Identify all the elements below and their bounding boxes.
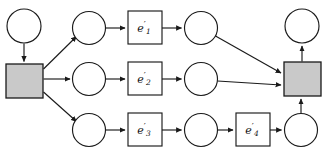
- node-row1-circle-b[interactable]: [185, 12, 218, 45]
- node-row3-circle-a[interactable]: [73, 114, 106, 147]
- node-right-shaded-square[interactable]: [284, 62, 321, 96]
- node-row3-circle-b[interactable]: [185, 114, 218, 147]
- node-end-circle[interactable]: [285, 9, 319, 43]
- node-left-shaded-square[interactable]: [6, 64, 43, 98]
- node-start-circle[interactable]: [7, 9, 41, 43]
- edge-r1b-to-right-square: [216, 36, 282, 73]
- diagram-canvas: e′1 e′2 e′3 e′4: [0, 0, 328, 158]
- edge-r2b-to-right-square: [218, 81, 282, 85]
- workflow-graph: e′1 e′2 e′3 e′4: [0, 0, 328, 158]
- edge-left-square-to-r3a: [44, 92, 77, 122]
- node-row2-circle-a[interactable]: [73, 63, 106, 96]
- label-e1-sub: 1: [146, 26, 151, 35]
- label-e3-sub: 3: [146, 128, 151, 137]
- node-row2-circle-b[interactable]: [185, 63, 218, 96]
- node-row1-circle-a[interactable]: [73, 12, 106, 45]
- label-e2-sub: 2: [145, 77, 151, 86]
- label-e4-sub: 4: [253, 128, 259, 137]
- node-row3-circle-c[interactable]: [285, 114, 318, 147]
- edge-left-square-to-r1a: [44, 37, 77, 70]
